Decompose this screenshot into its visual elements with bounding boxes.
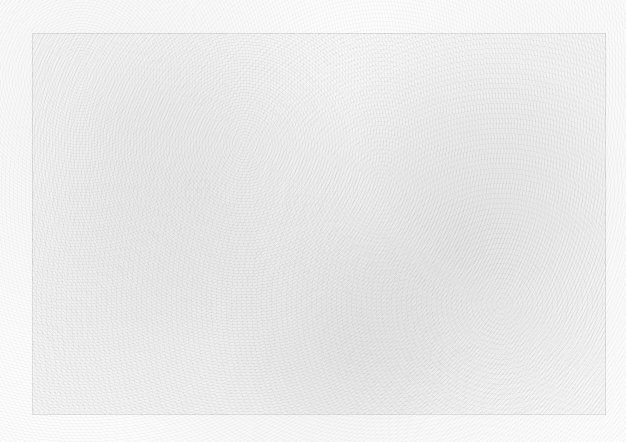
- faint-rectangular-frame: [32, 33, 606, 415]
- textured-background: [0, 0, 626, 442]
